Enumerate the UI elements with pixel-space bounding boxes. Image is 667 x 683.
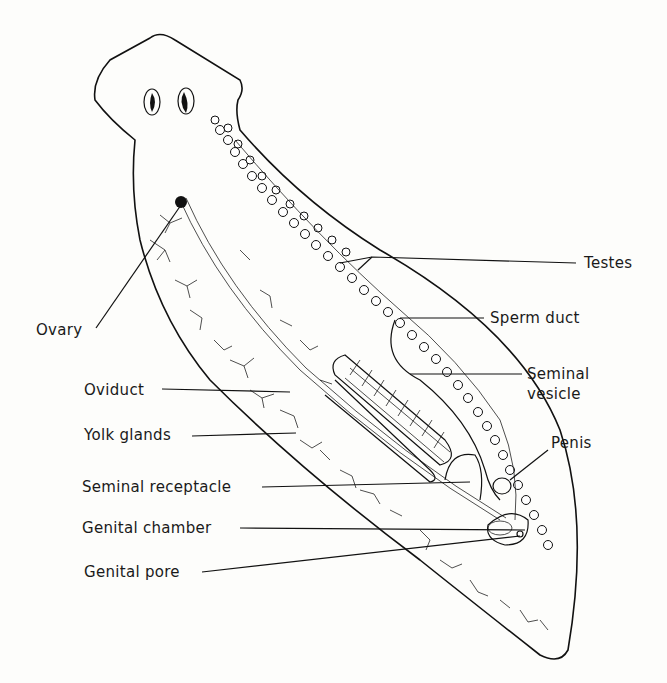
label-genital-pore: Genital pore [84, 563, 180, 581]
oviduct-line [180, 200, 500, 520]
label-oviduct: Oviduct [84, 381, 144, 399]
label-seminal-vesicle-2: vesicle [527, 385, 581, 403]
sperm-duct [235, 140, 516, 520]
label-seminal-vesicle-1: Seminal [527, 365, 590, 383]
seminal-receptacle-shape [445, 454, 482, 500]
label-seminal-receptacle: Seminal receptacle [82, 478, 231, 496]
penis-shape [493, 478, 511, 494]
label-ovary: Ovary [36, 321, 82, 339]
ovary-shape [175, 196, 187, 208]
eyespots [144, 88, 194, 115]
label-genital-chamber: Genital chamber [82, 519, 212, 537]
label-testes: Testes [583, 254, 632, 272]
planarian-diagram: Testes Sperm duct Seminal vesicle Penis … [0, 0, 667, 683]
label-yolk-glands: Yolk glands [83, 426, 171, 444]
seminal-vesicle [391, 320, 500, 500]
label-penis: Penis [551, 434, 592, 452]
label-sperm-duct: Sperm duct [490, 309, 580, 327]
